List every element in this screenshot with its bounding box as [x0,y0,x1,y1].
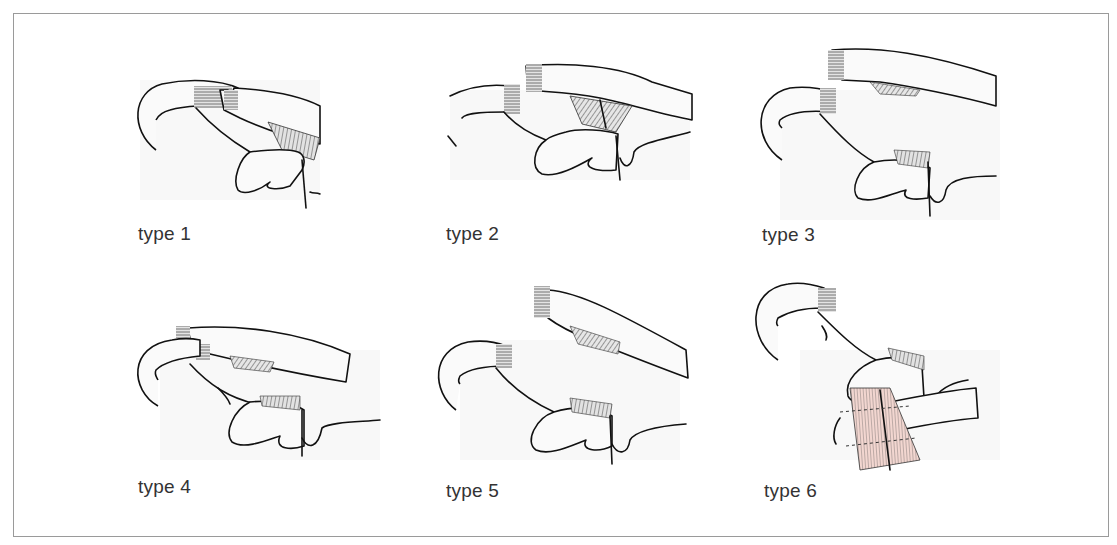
panel-label: type 1 [138,223,191,245]
panel-type-6: type 6 [740,270,1020,530]
panel-label: type 2 [446,223,499,245]
panel-type-1: type 1 [120,40,360,260]
panel-type-3: type 3 [740,30,1010,260]
panel-type-4: type 4 [120,310,390,530]
panel-label: type 6 [764,480,817,502]
panel-label: type 4 [138,476,191,498]
panel-type-5: type 5 [420,270,730,530]
panel-label: type 5 [446,480,499,502]
panel-type-2: type 2 [430,40,710,260]
panel-label: type 3 [762,224,815,246]
